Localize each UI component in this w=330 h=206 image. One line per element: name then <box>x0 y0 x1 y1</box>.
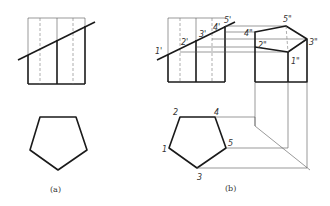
label-top-2: 2 <box>173 108 178 117</box>
panel-b-top-view <box>169 117 307 168</box>
panel-a-top-view-pentagon <box>30 117 87 170</box>
label-top-3: 3 <box>197 173 202 182</box>
panel-b-caption: (b) <box>225 184 236 193</box>
panel-a-caption: (a) <box>50 185 61 194</box>
panel-b: 1' 2' 3' 4' 5' 1" 2" 3" 4" 5" 1 2 3 4 5 <box>155 15 318 182</box>
label-front-2: 2' <box>181 38 188 47</box>
label-top-4: 4 <box>214 108 219 117</box>
panel-a <box>18 18 95 170</box>
panel-a-front-view <box>18 18 95 84</box>
label-side-1: 1" <box>291 57 300 66</box>
label-side-3: 3" <box>309 38 318 47</box>
label-top-1: 1 <box>162 145 167 154</box>
label-top-5: 5 <box>228 139 233 148</box>
label-front-5: 5' <box>224 16 231 25</box>
label-front-1: 1' <box>155 47 162 56</box>
label-side-4: 4" <box>244 29 253 38</box>
label-side-2: 2" <box>258 41 267 50</box>
panel-b-front-view <box>157 18 307 82</box>
label-side-5: 5" <box>283 15 292 24</box>
label-front-3: 3' <box>199 30 206 39</box>
label-front-4: 4' <box>213 23 220 32</box>
figure-canvas: (a) <box>0 0 330 206</box>
